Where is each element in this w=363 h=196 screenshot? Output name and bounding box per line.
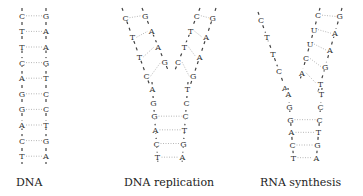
rna-template-left-base: T <box>264 33 270 42</box>
rep-stem-left-base: A <box>152 126 159 135</box>
panel-dna: CTTCAGGACTGAAGTCCTGA <box>18 8 49 164</box>
rna-stem-right-base: C <box>316 116 322 125</box>
rna-stem-left-base: T <box>291 154 297 163</box>
hydrogen-bond <box>144 47 155 57</box>
rep-left-outer-base: C <box>143 72 149 81</box>
rep-stem-left-base: T <box>155 153 161 162</box>
hydrogen-bond <box>130 16 142 18</box>
caption-dna: DNA <box>16 176 43 189</box>
dna-diagram-figure: CTTCAGGACTGAAGTCCTGA CTTCGAAGCTTCGAAGAGG… <box>0 0 363 196</box>
rep-stem-right-base: G <box>180 140 186 149</box>
rna-template-left-base: T <box>270 50 276 59</box>
rna-template-left-base: C <box>258 16 264 25</box>
hydrogen-bond <box>310 58 321 66</box>
dna-left-strand-base: T <box>19 152 25 161</box>
rep-left-outer-base: T <box>130 33 136 42</box>
rna-stem-left-base: A <box>288 128 295 137</box>
dna-right-strand-base: G <box>43 59 49 68</box>
rna-stem-left-base: A <box>285 90 292 99</box>
rep-left-inner-base: A <box>148 27 155 36</box>
dna-left-strand-base: G <box>19 105 25 114</box>
dna-right-strand-base: A <box>42 27 49 36</box>
hydrogen-bond <box>182 62 189 76</box>
rna-coding-right-base: G <box>336 12 342 21</box>
rep-stem-right-base: T <box>185 85 191 94</box>
dna-right-strand-base: C <box>43 90 49 99</box>
dna-right-strand-base: T <box>43 74 49 83</box>
rna-strand-base: C <box>315 11 321 20</box>
hydrogen-bond <box>151 62 161 76</box>
rna-strand-base: C <box>303 54 309 63</box>
dna-right-strand-base: A <box>42 43 49 52</box>
rna-coding-right-base: G <box>322 63 328 72</box>
rep-right-outer-base: G <box>190 72 196 81</box>
hydrogen-bond <box>318 30 331 34</box>
rep-stem-left-base: G <box>150 99 156 108</box>
dna-left-strand-base: T <box>19 27 25 36</box>
hydrogen-bond <box>188 47 195 57</box>
rep-stem-left-base: C <box>153 140 159 149</box>
dna-left-strand-base: C <box>19 59 25 68</box>
rep-left-inner-base: G <box>162 58 168 67</box>
rna-stem-right-base: T <box>316 128 322 137</box>
rna-stem-left-base: C <box>289 141 295 150</box>
rna-stem-left-base: G <box>286 103 292 112</box>
rep-right-outer-base: A <box>196 53 203 62</box>
dna-left-strand-base: C <box>19 137 25 146</box>
rep-stem-left-base: G <box>151 112 157 121</box>
rep-left-inner-base: G <box>142 12 148 21</box>
dna-left-strand-base: A <box>18 121 25 130</box>
dna-left-strand-base: T <box>19 43 25 52</box>
rna-strand-base: U <box>307 40 314 49</box>
dna-left-strand-base: C <box>19 12 25 21</box>
dna-left-strand-base: G <box>19 90 25 99</box>
rep-left-inner-base: A <box>154 43 161 52</box>
rna-stem-left-base: G <box>287 116 293 125</box>
rna-coding-right-base: T <box>318 80 324 89</box>
rep-stem-right-base: T <box>182 126 188 135</box>
rna-template-left-base: C <box>276 67 282 76</box>
dna-right-strand-base: G <box>43 12 49 21</box>
hydrogen-bond <box>137 31 148 37</box>
rep-right-inner-base: C <box>194 12 200 21</box>
rep-right-outer-base: G <box>210 14 216 23</box>
caption-dna-replication: DNA replication <box>124 176 214 189</box>
rep-stem-right-backbone <box>182 82 188 164</box>
rep-right-outer-base: A <box>202 33 209 42</box>
caption-rna-synthesis: RNA synthesis <box>260 176 341 189</box>
rep-stem-right-base: C <box>182 112 188 121</box>
hydrogen-bond <box>195 31 203 37</box>
rep-left-outer-base: C <box>122 14 128 23</box>
rna-coding-right-base: A <box>331 29 338 38</box>
hydrogen-bond <box>306 73 316 84</box>
rna-stem-right-base: T <box>319 90 325 99</box>
rep-right-inner-base: C <box>175 58 181 67</box>
dna-right-strand-base: C <box>43 105 49 114</box>
hydrogen-bond <box>201 16 209 18</box>
rep-stem-right-base: C <box>183 99 189 108</box>
rna-stem-right-base: A <box>313 154 320 163</box>
rna-strand-base: A <box>298 69 305 78</box>
panel-dna-replication: CTTCGAAGCTTCGAAGAGGACTTCCTGA <box>122 8 216 164</box>
rep-right-inner-base: T <box>182 43 188 52</box>
dna-left-strand-base: A <box>18 74 25 83</box>
hydrogen-bond <box>322 15 336 16</box>
rna-stem-left-backbone <box>288 88 294 164</box>
rep-right-inner-base: T <box>188 27 194 36</box>
rep-stem-left-backbone <box>152 82 158 164</box>
rep-stem-left-base: A <box>149 85 156 94</box>
panel-rna-synthesis: CTTCACUUCAGAAGTAGGACTTCCTGA <box>258 8 343 164</box>
hydrogen-bond <box>314 44 326 50</box>
rna-stem-right-base: G <box>314 141 320 150</box>
dna-right-strand-base: T <box>43 121 49 130</box>
dna-right-strand-base: A <box>42 152 49 161</box>
rna-coding-right-base: A <box>326 46 333 55</box>
rep-left-outer-base: T <box>137 53 143 62</box>
rna-strand-base: U <box>311 26 318 35</box>
dna-right-strand-base: G <box>43 137 49 146</box>
rna-stem-right-base: C <box>317 103 323 112</box>
rep-stem-right-base: A <box>179 153 186 162</box>
rna-stem-right-backbone <box>316 88 322 164</box>
